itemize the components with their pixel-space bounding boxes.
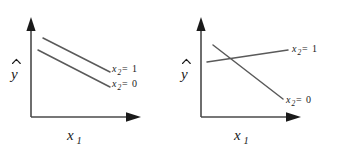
right-series-1-equals: = — [302, 43, 308, 54]
left-series-0-subscript: 2 — [118, 83, 122, 92]
left-series-1-equals: = — [122, 63, 128, 74]
right-x-axis-subscript: 1 — [244, 135, 249, 146]
right-x-axis-label: x 1 — [233, 127, 249, 146]
right-line-x2-0 — [213, 45, 283, 99]
left-x-axis-label: x 1 — [66, 127, 82, 146]
right-series-0-subscript: 2 — [292, 99, 296, 108]
right-series-1-var: x — [291, 43, 297, 54]
left-x-axis-subscript: 1 — [77, 135, 82, 146]
left-series-1-subscript: 2 — [118, 68, 122, 77]
right-y-axis-label: y — [179, 59, 190, 82]
right-y-axis-arrow-icon — [196, 17, 205, 31]
left-x-axis-arrow-icon — [126, 112, 141, 122]
left-series-0-value: 0 — [132, 78, 137, 89]
right-y-axis-label-text: y — [179, 66, 188, 82]
left-series-1-var: x — [111, 63, 117, 74]
left-series-0-var: x — [111, 78, 117, 89]
right-series-0-var: x — [285, 94, 291, 105]
two-panel-regression-diagram: y x 1 x 2 = 1 x 2 = 0 — [0, 0, 340, 154]
left-panel: y x 1 x 2 = 1 x 2 = 0 — [9, 17, 141, 146]
left-y-axis-arrow-icon — [26, 17, 35, 31]
left-y-axis-label-text: y — [9, 66, 18, 82]
right-series-1-subscript: 2 — [298, 48, 302, 57]
left-line-x2-0 — [38, 50, 110, 87]
right-x-axis-label-text: x — [233, 127, 241, 143]
right-x-axis-arrow-icon — [286, 112, 301, 122]
right-series-1-value: 1 — [312, 43, 317, 54]
right-series-0-value: 0 — [306, 94, 311, 105]
left-series-label-x2-0: x 2 = 0 — [111, 78, 137, 92]
right-series-label-x2-1: x 2 = 1 — [291, 43, 317, 57]
left-x-axis-label-text: x — [66, 127, 74, 143]
right-series-0-equals: = — [296, 94, 302, 105]
left-y-axis-hat-icon — [13, 59, 21, 63]
left-series-1-value: 1 — [132, 63, 137, 74]
right-line-x2-1 — [207, 50, 288, 62]
left-series-0-equals: = — [122, 78, 128, 89]
right-series-label-x2-0: x 2 = 0 — [285, 94, 311, 108]
left-y-axis-label: y — [9, 59, 20, 82]
right-y-axis-hat-icon — [183, 59, 191, 63]
left-series-label-x2-1: x 2 = 1 — [111, 63, 137, 77]
right-panel: y x 1 x 2 = 1 x 2 = 0 — [179, 17, 317, 146]
left-line-x2-1 — [43, 38, 110, 72]
